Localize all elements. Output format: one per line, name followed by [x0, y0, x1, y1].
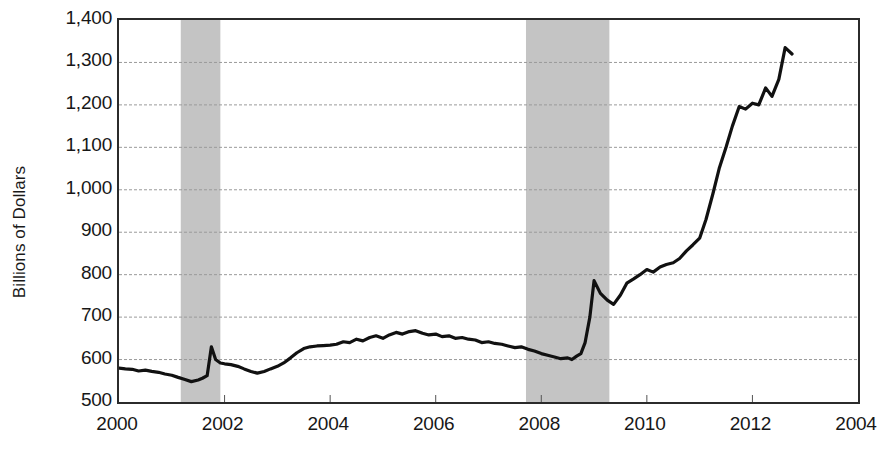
x-tick-label: 2004: [835, 413, 876, 435]
x-tick-label: 2000: [96, 413, 137, 435]
chart-figure: Billions of Dollars 5006007008009001,000…: [0, 0, 889, 464]
x-tick-label: 2010: [624, 413, 665, 435]
recession-2001: [181, 20, 221, 402]
recession-2008: [526, 20, 609, 402]
axis-ticks: [225, 395, 753, 402]
plot-area: [117, 18, 860, 404]
x-tick-label: 2008: [519, 413, 560, 435]
x-tick-label: 2012: [730, 413, 771, 435]
shaded-recession-bands: [181, 20, 610, 402]
x-tick-label: 2002: [202, 413, 243, 435]
x-tick-label: 2006: [413, 413, 454, 435]
chart-plot-svg: [119, 20, 858, 402]
x-tick-label: 2004: [307, 413, 348, 435]
